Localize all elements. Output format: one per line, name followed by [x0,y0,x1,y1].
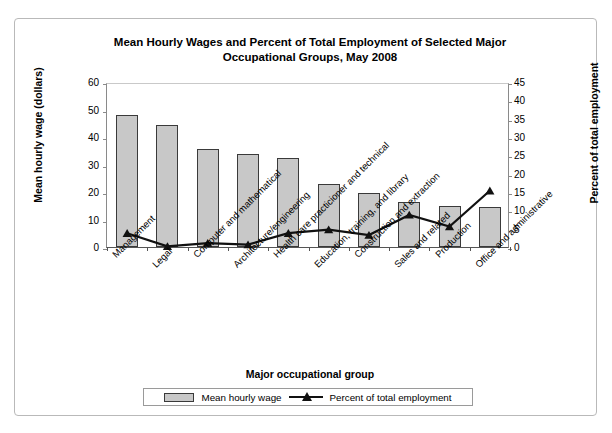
x-axis-category-label: Legal [150,246,174,270]
y-axis-left-tick-label: 0 [65,242,99,253]
y-axis-right-tick-label: 25 [514,150,548,161]
chart-frame: Mean Hourly Wages and Percent of Total E… [14,18,597,416]
legend-line-triangle-swatch-icon [289,392,323,402]
y-axis-right-tick-label: 0 [514,242,548,253]
y-axis-left-tick-label: 60 [65,77,99,88]
y-axis-left-tick-label: 20 [65,187,99,198]
y-axis-left-tick-label: 50 [65,105,99,116]
y-axis-right-title: Percent of total employment [588,43,600,223]
y-axis-left-tick-label: 30 [65,160,99,171]
y-axis-right-tick-label: 30 [514,132,548,143]
y-axis-right-tick-label: 35 [514,114,548,125]
line-marker-triangle [485,187,494,195]
chart-title: Mean Hourly Wages and Percent of Total E… [75,35,545,65]
x-axis-title: Major occupational group [135,368,485,380]
y-axis-left-title: Mean hourly wage (dollars) [32,50,44,220]
chart-title-line-1: Mean Hourly Wages and Percent of Total E… [75,35,545,50]
chart-title-line-2: Occupational Groups, May 2008 [75,50,545,65]
chart-legend: Mean hourly wage Percent of total employ… [143,388,473,406]
y-axis-right-tick-label: 40 [514,95,548,106]
legend-bar-swatch-icon [164,393,194,402]
y-axis-left-tick-label: 40 [65,132,99,143]
legend-label-percent-of-total-employment: Percent of total employment [330,392,452,403]
y-axis-right-tick-label: 20 [514,169,548,180]
x-axis-tick [510,247,511,251]
y-axis-right-tick-label: 45 [514,77,548,88]
y-axis-left-tick-label: 10 [65,215,99,226]
legend-label-mean-hourly-wage: Mean hourly wage [201,392,281,403]
